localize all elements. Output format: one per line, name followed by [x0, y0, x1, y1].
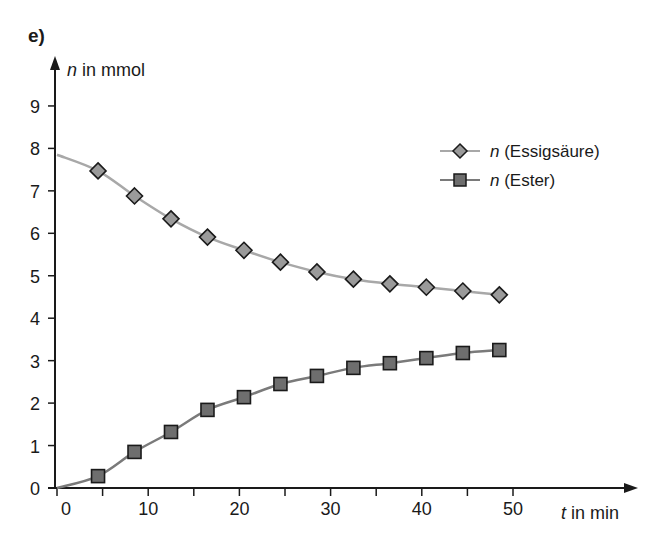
- diamond-marker-icon: [345, 271, 361, 287]
- diamond-marker-icon: [382, 276, 398, 292]
- square-marker-icon: [347, 361, 360, 374]
- square-marker-icon: [420, 352, 433, 365]
- legend-label: n (Ester): [490, 171, 555, 190]
- y-axis-label: n in mmol: [67, 60, 145, 80]
- diamond-marker-icon: [453, 144, 467, 158]
- diamond-marker-icon: [236, 242, 252, 258]
- y-tick-label: 0: [30, 479, 40, 499]
- x-tick-label: 40: [412, 499, 432, 519]
- diamond-marker-icon: [163, 211, 179, 227]
- square-marker-icon: [274, 377, 287, 390]
- square-marker-icon: [165, 425, 178, 438]
- y-tick-label: 4: [30, 309, 40, 329]
- square-marker-icon: [128, 445, 141, 458]
- y-tick-label: 8: [30, 139, 40, 159]
- y-tick-label: 9: [30, 97, 40, 117]
- diamond-marker-icon: [309, 264, 325, 280]
- y-tick-label: 3: [30, 352, 40, 372]
- x-tick-label: 30: [321, 499, 341, 519]
- y-tick-label: 2: [30, 394, 40, 414]
- x-ticks: 01020304050: [57, 488, 523, 519]
- y-axis-label-unit: in mmol: [77, 60, 145, 80]
- y-ticks: 0123456789: [30, 97, 55, 499]
- square-marker-icon: [456, 347, 469, 360]
- x-axis-arrow-icon: [624, 483, 638, 493]
- diamond-marker-icon: [418, 279, 434, 295]
- panel-label: e): [28, 25, 45, 46]
- series-layer: [57, 155, 507, 488]
- diamond-marker-icon: [272, 254, 288, 270]
- series-line: [57, 350, 499, 488]
- x-tick-label: 20: [229, 499, 249, 519]
- legend-label: n (Essigsäure): [490, 142, 600, 161]
- legend: n (Essigsäure) n (Ester): [440, 142, 600, 190]
- square-marker-icon: [237, 391, 250, 404]
- y-tick-label: 6: [30, 224, 40, 244]
- y-tick-label: 1: [30, 437, 40, 457]
- y-tick-label: 5: [30, 267, 40, 287]
- y-tick-label: 7: [30, 182, 40, 202]
- x-tick-label: 10: [138, 499, 158, 519]
- square-marker-icon: [454, 174, 466, 186]
- y-axis-label-var: n: [67, 60, 77, 80]
- diamond-marker-icon: [455, 283, 471, 299]
- x-tick-label: 50: [503, 499, 523, 519]
- square-marker-icon: [201, 403, 214, 416]
- square-marker-icon: [493, 344, 506, 357]
- series-line: [57, 155, 499, 295]
- x-tick-label: 0: [61, 499, 71, 519]
- diamond-marker-icon: [90, 163, 106, 179]
- square-marker-icon: [92, 470, 105, 483]
- axes: [48, 56, 638, 493]
- legend-item-essigsaeure: n (Essigsäure): [440, 142, 600, 161]
- diamond-marker-icon: [199, 229, 215, 245]
- series-ester: [57, 344, 506, 488]
- x-axis-label: t in min: [561, 503, 619, 523]
- square-marker-icon: [310, 369, 323, 382]
- square-marker-icon: [383, 357, 396, 370]
- diamond-marker-icon: [491, 287, 507, 303]
- chart: e) 0123456789 01020304050 n in mmol t in…: [0, 0, 661, 542]
- legend-item-ester: n (Ester): [440, 171, 555, 190]
- diamond-marker-icon: [127, 188, 143, 204]
- series-essigsaeure: [57, 155, 507, 303]
- x-axis-label-unit: in min: [566, 503, 619, 523]
- y-axis-arrow-icon: [50, 56, 60, 70]
